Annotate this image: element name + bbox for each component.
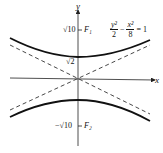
focus-upper-name: F₁ bbox=[84, 26, 92, 34]
lower-branch bbox=[10, 100, 150, 121]
focus-lower-name: F₂ bbox=[84, 122, 92, 130]
hyperbola-equation: y²2 − x²8 = 1 bbox=[110, 20, 147, 39]
x-axis bbox=[10, 78, 155, 80]
upper-branch bbox=[10, 38, 150, 57]
focus-lower-value: −√10 bbox=[55, 122, 72, 130]
y-axis-label: y bbox=[76, 2, 80, 11]
focus-upper-value: √10 bbox=[63, 26, 75, 34]
x-axis-label: x bbox=[155, 76, 159, 85]
vertex-upper-label: √2 bbox=[66, 58, 74, 66]
